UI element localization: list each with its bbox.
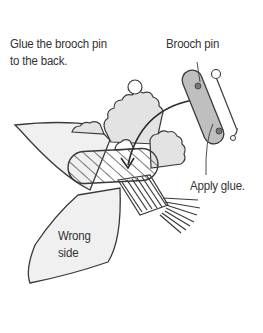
instruction-line-2: to the back.: [10, 53, 107, 70]
instruction-label: Glue the brooch pin to the back.: [10, 36, 107, 70]
brooch-pin-icon: [179, 62, 237, 147]
brooch-illustration: Glue the brooch pin to the back. Brooch …: [0, 0, 263, 333]
instruction-line-1: Glue the brooch pin: [10, 36, 107, 53]
apply-glue-label: Apply glue.: [190, 178, 245, 195]
thread-wrap-icon: [118, 175, 200, 233]
wrong-side-label: Wrong side: [58, 228, 91, 262]
brooch-pin-label: Brooch pin: [166, 36, 219, 53]
wrong-side-line-2: side: [58, 245, 91, 262]
glue-area-icon: [67, 148, 159, 185]
wrong-side-line-1: Wrong: [58, 228, 91, 245]
